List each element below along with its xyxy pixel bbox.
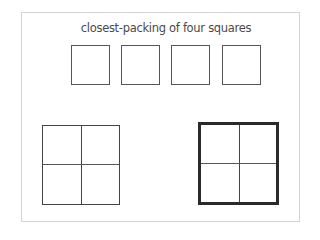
grid-divider-horizontal	[43, 164, 119, 165]
grid-divider-horizontal	[201, 163, 276, 164]
packed-grid-thin	[42, 125, 120, 205]
square-1	[71, 45, 110, 85]
square-2	[121, 45, 160, 85]
grid-divider-vertical	[81, 126, 82, 204]
packed-grid-thick	[198, 122, 279, 205]
square-4	[222, 45, 261, 85]
diagram-title: closest-packing of four squares	[71, 21, 261, 35]
square-3	[171, 45, 210, 85]
